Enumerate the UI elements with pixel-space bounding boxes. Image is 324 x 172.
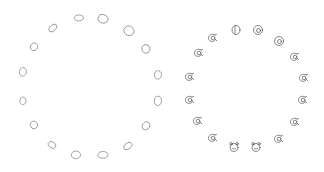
blob-doodle-icon	[232, 26, 240, 35]
blob-shape	[20, 97, 26, 105]
blob-shape	[123, 141, 134, 151]
spiral-doodle-icon	[254, 26, 263, 35]
right-doodle-ring	[185, 26, 307, 152]
blob-shape	[47, 140, 57, 150]
critter-doodle-icon	[208, 134, 216, 141]
blob-shape	[97, 13, 109, 24]
blob-shape	[141, 120, 152, 131]
blob-shape	[75, 15, 84, 21]
blob-shape	[20, 68, 27, 77]
blob-shape	[72, 151, 81, 159]
critter-doodle-icon	[185, 73, 193, 80]
critter-doodle-icon	[185, 96, 193, 103]
blob-shape	[29, 120, 39, 130]
critter-doodle-icon	[208, 34, 216, 41]
left-blob-ring	[20, 13, 162, 159]
blob-shape	[98, 151, 108, 158]
critter-doodle-icon	[298, 96, 306, 103]
sketch-canvas	[0, 0, 324, 172]
blob-shape	[48, 23, 59, 33]
blob-shape	[155, 71, 162, 80]
critter-doodle-icon	[299, 74, 307, 81]
blob-shape	[155, 96, 162, 105]
critter-doodle-icon	[290, 53, 298, 60]
blob-shape	[29, 42, 39, 52]
bear-doodle-icon	[252, 143, 261, 152]
critter-doodle-icon	[274, 135, 282, 142]
blob-shape	[122, 24, 135, 37]
blob-shape	[141, 43, 151, 54]
critter-doodle-icon	[193, 117, 201, 124]
bear-doodle-icon	[230, 143, 239, 152]
spiral-doodle-icon	[275, 37, 284, 46]
critter-doodle-icon	[194, 49, 202, 56]
critter-doodle-icon	[290, 118, 298, 125]
